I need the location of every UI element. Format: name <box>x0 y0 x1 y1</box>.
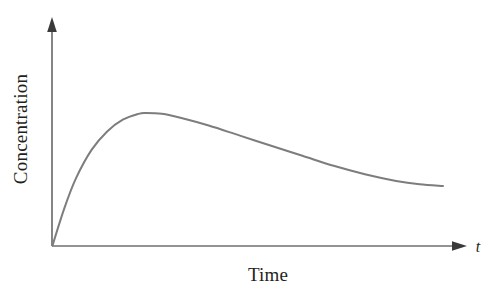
concentration-time-chart: Concentration Time t <box>0 0 497 295</box>
y-axis-label: Concentration <box>10 74 31 185</box>
x-axis-symbol-label: t <box>476 238 481 255</box>
chart-background <box>0 0 497 295</box>
x-axis-label: Time <box>248 264 288 285</box>
chart-figure: Concentration Time t <box>0 0 497 295</box>
